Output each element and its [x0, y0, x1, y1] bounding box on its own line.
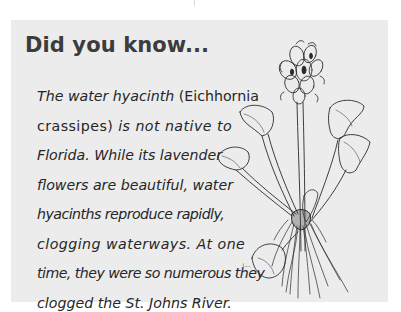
body-text-italic: The water hyacinth — [37, 88, 179, 104]
artist-signature: J— — [242, 262, 250, 269]
roots-icon — [272, 220, 348, 298]
body-text-scientific-name: crassipes) — [37, 118, 118, 134]
callout-heading: Did you know... — [25, 33, 209, 57]
leaf-icon — [310, 135, 370, 222]
page-edge-mark — [194, 0, 195, 6]
page: Did you know... The water hyacinth (Eich… — [0, 0, 401, 312]
water-hyacinth-illustration — [212, 36, 380, 302]
flower-cluster-icon — [276, 40, 326, 104]
leaf-icon — [312, 100, 364, 218]
leaf-icon — [252, 232, 298, 278]
